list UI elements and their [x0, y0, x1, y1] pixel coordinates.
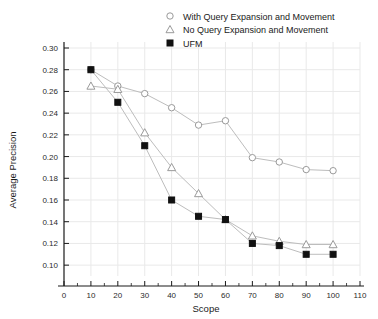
- y-tick-label-0.26: 0.26: [42, 87, 58, 96]
- y-tick-label-0.20: 0.20: [42, 153, 58, 162]
- x-tick-label-0: 0: [62, 291, 67, 300]
- y-tick-label-0.28: 0.28: [42, 66, 58, 75]
- legend-label-3: UFM: [183, 39, 203, 49]
- y-tick-label-0.24: 0.24: [42, 109, 58, 118]
- data-point-s1-x90: [303, 166, 309, 172]
- data-point-s3-x20: [115, 99, 121, 105]
- x-tick-label-40: 40: [167, 291, 176, 300]
- data-point-s1-x60: [222, 118, 228, 124]
- y-tick-label-0.22: 0.22: [42, 131, 58, 140]
- data-point-s1-x30: [142, 90, 148, 96]
- data-point-s3-x40: [169, 197, 175, 203]
- y-tick-label-0.10: 0.10: [42, 261, 58, 270]
- data-point-s1-x50: [195, 122, 201, 128]
- x-tick-label-80: 80: [275, 291, 284, 300]
- x-tick-label-20: 20: [113, 291, 122, 300]
- data-point-s3-x50: [196, 213, 202, 219]
- average-precision-line-chart: 0102030405060708090100110 0.100.120.140.…: [0, 0, 378, 319]
- data-point-s3-x30: [142, 143, 148, 149]
- x-tick-label-70: 70: [248, 291, 257, 300]
- y-tick-label-0.30: 0.30: [42, 44, 58, 53]
- x-tick-label-10: 10: [86, 291, 95, 300]
- chart-container: 0102030405060708090100110 0.100.120.140.…: [0, 0, 378, 319]
- data-point-s1-x80: [276, 159, 282, 165]
- data-point-s1-x70: [249, 154, 255, 160]
- x-tick-label-90: 90: [302, 291, 311, 300]
- y-tick-label-0.14: 0.14: [42, 218, 58, 227]
- x-tick-label-30: 30: [140, 291, 149, 300]
- data-point-s3-x90: [303, 251, 309, 257]
- y-tick-label-0.16: 0.16: [42, 196, 58, 205]
- legend-label-2: No Query Expansion and Movement: [183, 25, 329, 35]
- data-point-s3-x80: [276, 243, 282, 249]
- y-tick-label-0.12: 0.12: [42, 239, 58, 248]
- legend-label-1: With Query Expansion and Movement: [183, 12, 335, 22]
- data-point-s3-x10: [88, 67, 94, 73]
- x-tick-label-50: 50: [194, 291, 203, 300]
- x-axis-title: Scope: [193, 303, 220, 314]
- data-point-s1-x100: [330, 167, 336, 173]
- legend-marker-1: [167, 13, 173, 19]
- data-point-s3-x100: [330, 251, 336, 257]
- x-tick-label-110: 110: [354, 291, 367, 300]
- data-point-s1-x40: [168, 105, 174, 111]
- legend-marker-3: [167, 40, 173, 46]
- x-tick-label-100: 100: [326, 291, 340, 300]
- data-point-s3-x70: [249, 240, 255, 246]
- x-tick-label-60: 60: [221, 291, 230, 300]
- data-point-s3-x60: [222, 217, 228, 223]
- y-tick-label-0.18: 0.18: [42, 174, 58, 183]
- y-axis-title: Average Precision: [7, 132, 18, 209]
